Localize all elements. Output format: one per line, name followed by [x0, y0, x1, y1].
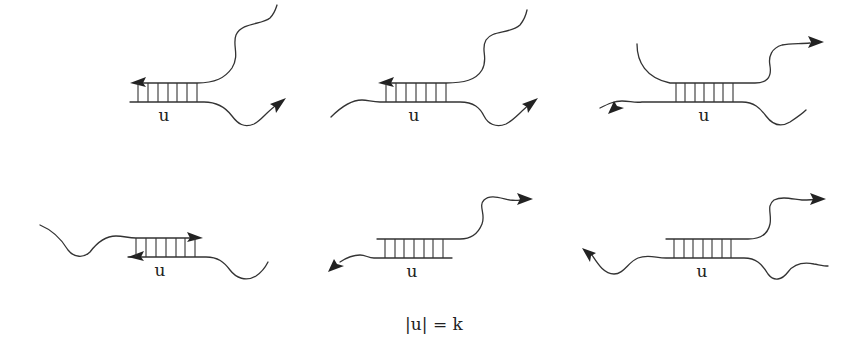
top-strand	[386, 10, 527, 83]
arrow-right-icon	[810, 193, 826, 205]
arrow-right-icon	[808, 36, 824, 48]
rungs	[676, 83, 733, 102]
rungs	[138, 83, 197, 102]
panel-1: u	[130, 5, 286, 126]
panel-2: u	[331, 10, 538, 126]
arrow-right-icon	[270, 98, 286, 113]
bottom-strand	[128, 257, 268, 279]
duplex-label: u	[699, 105, 710, 125]
panel-6: u	[582, 193, 828, 281]
duplex-label: u	[409, 105, 420, 125]
duplex-label: u	[159, 105, 170, 125]
panel-4: u	[40, 225, 268, 280]
arrow-right-icon	[517, 193, 533, 205]
arrow-left-icon	[582, 248, 596, 262]
rungs	[386, 83, 446, 102]
panel-3: u	[600, 36, 824, 125]
bottom-strand	[130, 102, 278, 126]
bottom-strand	[592, 255, 828, 279]
top-strand	[637, 43, 810, 83]
strand-displacement-diagram: u u u	[0, 0, 868, 359]
rungs	[136, 238, 195, 257]
duplex-label: u	[697, 261, 708, 281]
rungs	[674, 239, 731, 258]
duplex-label: u	[407, 261, 418, 281]
arrow-right-icon	[522, 98, 538, 113]
top-strand	[138, 5, 277, 83]
bottom-strand	[331, 100, 530, 126]
bottom-strand	[340, 255, 452, 262]
top-strand	[666, 198, 818, 239]
figure-caption: |u| = k	[0, 314, 868, 334]
panel-5: u	[328, 193, 533, 281]
top-strand	[377, 197, 524, 239]
rungs	[385, 239, 443, 258]
duplex-label: u	[155, 260, 166, 280]
top-strand	[40, 225, 195, 256]
